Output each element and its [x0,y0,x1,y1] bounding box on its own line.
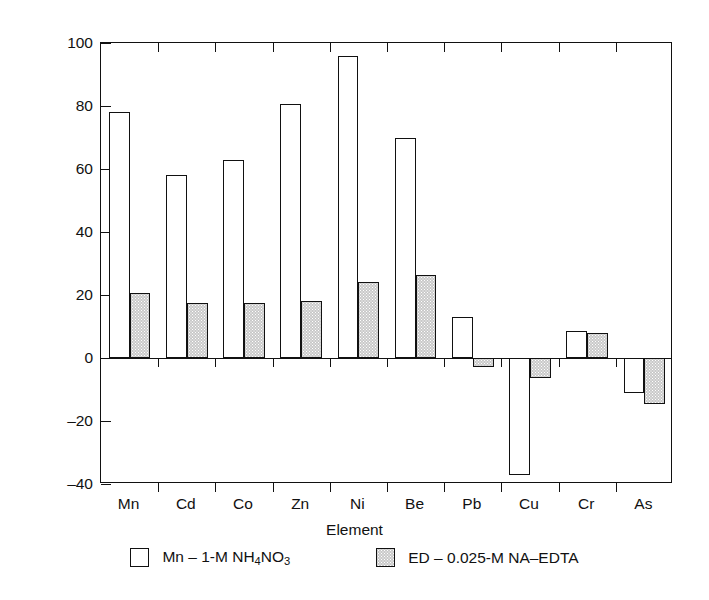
x-axis-tick [330,482,331,492]
bar-zn-series1 [280,104,301,358]
chart-legend: Mn – 1-M NH4NO3 ED – 0.025-M NA–EDTA [0,548,709,567]
x-axis-tick [158,482,159,492]
x-axis-label-pb: Pb [442,495,502,513]
bar-as-series2 [644,358,665,404]
bar-ni-series2 [358,282,379,358]
x-axis-tick-zero [387,358,388,367]
bar-co-series1 [223,160,244,358]
x-axis-title: Element [0,521,709,539]
bar-be-series2 [416,275,437,358]
y-axis-tick-label: 40 [76,223,93,241]
x-axis-tick-zero [559,358,560,367]
x-axis-tick-top [387,43,388,52]
x-axis-tick [387,482,388,492]
legend-entry-na-edta: ED – 0.025-M NA–EDTA [376,548,578,567]
y-axis-tick: 80 [101,106,111,107]
bar-cr-series1 [566,331,587,358]
y-axis-tick-label: 80 [76,97,93,115]
x-axis-tick [616,482,617,492]
legend-label-ammonium-nitrate: Mn – 1-M NH4NO3 [162,548,290,567]
bar-pb-series1 [452,317,473,358]
x-axis-label-zn: Zn [270,495,330,513]
bar-zn-series2 [301,301,322,358]
x-axis-label-cu: Cu [499,495,559,513]
x-axis-tick-zero [215,358,216,367]
x-axis-tick-top [616,43,617,52]
legend-entry-ammonium-nitrate: Mn – 1-M NH4NO3 [130,548,290,567]
y-axis-tick: 100 [101,43,111,44]
zero-baseline [101,358,671,359]
y-axis-tick: –40 [101,484,111,485]
x-axis-tick-zero [330,358,331,367]
plot-area: 100806040200–20–40 [100,42,672,483]
y-axis-tick: –20 [101,421,111,422]
y-axis-tick-label: –40 [67,475,93,493]
y-axis-tick-label: 0 [84,349,93,367]
bar-ni-series1 [338,56,359,358]
bar-as-series1 [624,358,645,393]
y-axis-tick-label: –20 [67,412,93,430]
bar-mn-series2 [130,293,151,358]
legend-swatch-white [130,548,149,567]
bar-cd-series1 [166,175,187,358]
x-axis-tick-zero [444,358,445,367]
y-axis-tick-label: 60 [76,160,93,178]
x-axis-tick [273,482,274,492]
x-axis-tick-top [158,43,159,52]
x-axis-tick-top [444,43,445,52]
legend-label-na-edta: ED – 0.025-M NA–EDTA [408,549,578,567]
x-axis-label-mn: Mn [99,495,159,513]
bar-cu-series2 [530,358,551,378]
x-axis-tick-zero [616,358,617,367]
x-axis-label-cd: Cd [156,495,216,513]
bar-mn-series1 [109,112,130,358]
x-axis-tick-top [273,43,274,52]
x-axis-tick-zero [158,358,159,367]
bar-cd-series2 [187,303,208,358]
x-axis-tick-top [215,43,216,52]
bar-cu-series1 [509,358,530,475]
y-axis-tick: 0 [101,358,111,359]
x-axis-tick [444,482,445,492]
bar-chart-figure: % Limed/Unlimed × 100 100806040200–20–40… [0,0,709,600]
x-axis-tick [559,482,560,492]
bar-cr-series2 [587,333,608,358]
bar-pb-series2 [473,358,494,367]
x-axis-tick-top [330,43,331,52]
x-axis-tick-zero [501,358,502,367]
x-axis-tick [501,482,502,492]
x-axis-label-as: As [613,495,673,513]
x-axis-label-ni: Ni [327,495,387,513]
bar-be-series1 [395,138,416,359]
x-axis-label-co: Co [213,495,273,513]
x-axis-tick-top [559,43,560,52]
legend-swatch-gray [376,548,395,567]
x-axis-tick-top [501,43,502,52]
y-axis-tick-label: 100 [67,34,93,52]
x-axis-tick [215,482,216,492]
y-axis-tick-label: 20 [76,286,93,304]
x-axis-label-cr: Cr [556,495,616,513]
bar-co-series2 [244,303,265,358]
x-axis-tick-zero [273,358,274,367]
x-axis-label-be: Be [385,495,445,513]
